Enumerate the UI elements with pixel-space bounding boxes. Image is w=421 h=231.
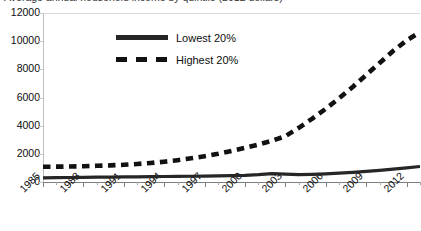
legend-label-highest: Highest 20% xyxy=(176,50,238,70)
legend-item-highest: Highest 20% xyxy=(116,50,286,72)
legend-swatch-solid-icon xyxy=(116,35,168,40)
chart-legend: Lowest 20% Highest 20% xyxy=(116,28,286,72)
legend-item-lowest: Lowest 20% xyxy=(116,28,286,50)
series-line-lowest-20 xyxy=(43,167,420,178)
legend-label-lowest: Lowest 20% xyxy=(176,28,236,48)
legend-swatch-dashed-icon xyxy=(116,57,168,62)
